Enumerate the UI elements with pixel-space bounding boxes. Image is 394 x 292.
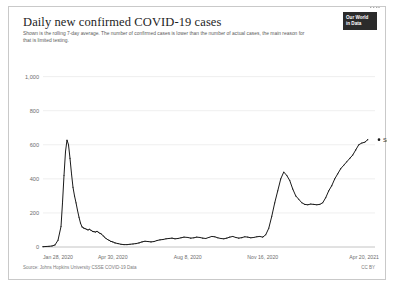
series-data-point bbox=[62, 202, 63, 203]
series-data-point bbox=[144, 241, 145, 242]
chart-frame: Daily new confirmed COVID-19 cases Shown… bbox=[8, 6, 386, 280]
series-data-point bbox=[147, 241, 148, 242]
series-data-point bbox=[378, 7, 379, 8]
x-axis-labels-group: Jan 28, 2020Apr 30, 2020Aug 8, 2020Nov 1… bbox=[43, 254, 379, 260]
series-data-point bbox=[101, 234, 102, 235]
series-data-point bbox=[63, 175, 64, 176]
series-data-point bbox=[328, 190, 329, 191]
series-data-point bbox=[337, 173, 338, 174]
series-data-point bbox=[367, 139, 368, 140]
series-data-point bbox=[295, 195, 296, 196]
license-note[interactable]: CC BY bbox=[361, 265, 375, 270]
series-data-point bbox=[274, 202, 275, 203]
series-data-point bbox=[352, 154, 353, 155]
series-data-point bbox=[322, 202, 323, 203]
series-data-point bbox=[159, 239, 160, 240]
series-line-south-korea bbox=[43, 140, 368, 247]
series-data-point bbox=[60, 226, 61, 227]
series-data-point bbox=[75, 202, 76, 203]
series-label-south-korea: South Korea bbox=[383, 137, 387, 143]
series-data-point bbox=[355, 149, 356, 150]
series-data-point bbox=[256, 236, 257, 237]
x-axis-tick-label: Nov 16, 2020 bbox=[247, 254, 278, 260]
series-data-point bbox=[86, 229, 87, 230]
chart-screenshot: Daily new confirmed COVID-19 cases Shown… bbox=[0, 0, 394, 292]
series-data-point bbox=[177, 238, 178, 239]
series-data-point bbox=[250, 237, 251, 238]
series-data-point bbox=[138, 242, 139, 243]
series-end-marker bbox=[378, 138, 381, 141]
series-data-point bbox=[271, 216, 272, 217]
y-axis-tick-label: 1,000 bbox=[25, 74, 39, 80]
series-data-point bbox=[98, 232, 99, 233]
series-data-point bbox=[334, 178, 335, 179]
series-data-point bbox=[205, 238, 206, 239]
series-data-point bbox=[168, 238, 169, 239]
series-data-point bbox=[150, 241, 151, 242]
series-data-point bbox=[57, 240, 58, 241]
series-data-point bbox=[304, 204, 305, 205]
series-data-point bbox=[93, 231, 94, 232]
series-data-point bbox=[89, 229, 90, 230]
y-axis-labels-group: 02004006008001,000 bbox=[25, 74, 39, 250]
y-axis-tick-label: 800 bbox=[30, 108, 39, 114]
series-data-point bbox=[214, 236, 215, 237]
series-data-point bbox=[107, 239, 108, 240]
series-data-point bbox=[171, 238, 172, 239]
series-data-point bbox=[364, 142, 365, 143]
gridlines-group bbox=[43, 77, 375, 247]
series-data-point bbox=[283, 171, 284, 172]
series-data-point bbox=[340, 168, 341, 169]
series-data-point bbox=[102, 235, 103, 236]
series-data-point bbox=[66, 139, 67, 140]
series-data-point bbox=[187, 237, 188, 238]
series-data-point bbox=[310, 204, 311, 205]
series-data-point bbox=[238, 238, 239, 239]
series-group: South Korea bbox=[42, 7, 387, 247]
series-data-point bbox=[99, 233, 100, 234]
source-note: Source: Johns Hopkins University CSSE CO… bbox=[23, 265, 137, 270]
series-data-point bbox=[42, 246, 43, 247]
series-data-point bbox=[316, 204, 317, 205]
series-data-point bbox=[223, 238, 224, 239]
series-data-point bbox=[162, 239, 163, 240]
series-data-point bbox=[259, 236, 260, 237]
series-data-point bbox=[202, 238, 203, 239]
series-data-point bbox=[105, 238, 106, 239]
series-data-point bbox=[190, 238, 191, 239]
series-data-point bbox=[331, 185, 332, 186]
series-data-point bbox=[370, 7, 371, 8]
series-data-point bbox=[343, 165, 344, 166]
x-axis-tick-label: Aug 8, 2020 bbox=[174, 254, 202, 260]
x-axis-tick-label: Jan 28, 2020 bbox=[43, 254, 73, 260]
plot-area: 02004006008001,000 Jan 28, 2020Apr 30, 2… bbox=[9, 7, 387, 281]
series-data-point bbox=[211, 236, 212, 237]
series-data-point bbox=[280, 178, 281, 179]
series-data-point bbox=[90, 230, 91, 231]
series-data-point bbox=[217, 237, 218, 238]
y-axis-tick-label: 400 bbox=[30, 176, 39, 182]
series-data-point bbox=[104, 237, 105, 238]
series-data-point bbox=[232, 236, 233, 237]
series-data-point bbox=[292, 189, 293, 190]
series-data-point bbox=[96, 231, 97, 232]
series-data-point bbox=[165, 238, 166, 239]
series-data-point bbox=[247, 237, 248, 238]
series-data-point bbox=[129, 244, 130, 245]
series-data-point bbox=[193, 237, 194, 238]
series-data-point bbox=[183, 237, 184, 238]
series-data-point bbox=[112, 241, 113, 242]
series-data-point bbox=[298, 199, 299, 200]
series-data-point bbox=[373, 7, 374, 8]
series-data-point bbox=[358, 144, 359, 145]
series-data-point bbox=[117, 243, 118, 244]
series-data-point bbox=[114, 242, 115, 243]
series-data-point bbox=[80, 223, 81, 224]
series-data-point bbox=[95, 231, 96, 232]
series-data-point bbox=[108, 240, 109, 241]
series-data-point bbox=[77, 210, 78, 211]
series-data-point bbox=[319, 204, 320, 205]
series-data-point bbox=[174, 238, 175, 239]
series-data-point bbox=[54, 244, 55, 245]
series-data-point bbox=[313, 204, 314, 205]
